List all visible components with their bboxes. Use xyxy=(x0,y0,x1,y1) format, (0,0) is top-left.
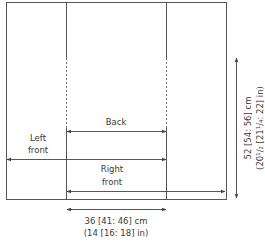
schematic-diagram: Back Left front Right front 36 [41: 46] … xyxy=(0,0,265,251)
length-dimension-cm: 52 [54: 56] cm xyxy=(243,96,253,159)
length-dimension-in: (20¹/₂ [21¹/₄: 22] in) xyxy=(255,86,265,170)
width-dimension-cm: 36 [41: 46] cm xyxy=(84,216,147,226)
right-front-label-line1: Right xyxy=(101,164,124,174)
left-front-label-line1: Left xyxy=(30,133,47,143)
width-dimension-in: (14 [16: 18] in) xyxy=(84,228,148,238)
back-label: Back xyxy=(106,117,127,127)
left-front-label-line2: front xyxy=(28,145,49,155)
right-front-label-line2: front xyxy=(102,177,123,187)
